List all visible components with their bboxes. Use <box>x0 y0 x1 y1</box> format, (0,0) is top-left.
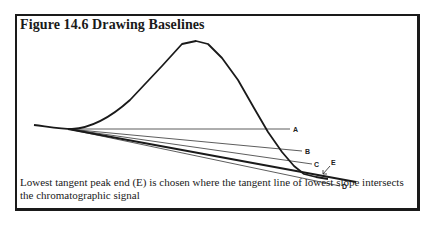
figure-caption: Lowest tangent peak end (E) is chosen wh… <box>20 176 415 202</box>
label-c: C <box>314 161 319 168</box>
label-b: B <box>305 148 310 155</box>
baseline-e <box>68 129 356 182</box>
label-e: E <box>331 159 336 166</box>
tangent-line-c <box>68 129 312 164</box>
tangent-line-b <box>68 129 302 151</box>
arrow-e <box>323 166 330 174</box>
chromatographic-signal <box>34 41 328 179</box>
label-a: A <box>293 126 298 133</box>
